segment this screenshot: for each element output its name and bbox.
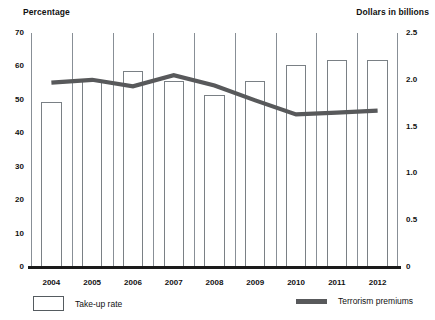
right-tick-2-0: 2.0 — [406, 75, 430, 84]
x-tick-2009: 2009 — [235, 278, 275, 287]
x-tick-2010: 2010 — [276, 278, 316, 287]
x-tick-2005: 2005 — [72, 278, 112, 287]
legend-item-terrorism-premiums: Terrorism premiums — [296, 296, 413, 306]
left-tick-70: 70 — [2, 28, 24, 37]
right-tick-0-5: 0.5 — [406, 215, 430, 224]
x-axis-line — [28, 266, 401, 269]
legend-label-take-up-rate: Take-up rate — [75, 299, 122, 309]
x-tick-2006: 2006 — [113, 278, 153, 287]
legend-item-take-up-rate: Take-up rate — [33, 296, 122, 311]
premium-line-path — [51, 75, 377, 114]
left-tick-40: 40 — [2, 128, 24, 137]
left-tick-10: 10 — [2, 229, 24, 238]
right-tick-0: 0 — [406, 262, 430, 271]
left-tick-50: 50 — [2, 95, 24, 104]
left-tick-30: 30 — [2, 162, 24, 171]
chart-container: Percentage Dollars in billions 706050403… — [0, 0, 435, 320]
left-axis-title: Percentage — [23, 7, 70, 17]
legend-swatch-bar-icon — [33, 296, 64, 311]
line-series-terrorism-premiums — [31, 33, 398, 267]
legend-swatch-line-icon — [296, 299, 327, 304]
x-tick-2004: 2004 — [31, 278, 71, 287]
x-tick-2007: 2007 — [154, 278, 194, 287]
left-tick-20: 20 — [2, 195, 24, 204]
legend-label-terrorism-premiums: Terrorism premiums — [338, 296, 413, 306]
right-tick-1-5: 1.5 — [406, 122, 430, 131]
left-tick-0: 0 — [2, 262, 24, 271]
right-axis-title: Dollars in billions — [356, 7, 429, 17]
right-tick-1-0: 1.0 — [406, 168, 430, 177]
x-tick-2011: 2011 — [317, 278, 357, 287]
x-tick-2012: 2012 — [358, 278, 398, 287]
x-tick-2008: 2008 — [195, 278, 235, 287]
plot-area — [31, 33, 398, 267]
right-tick-2-5: 2.5 — [406, 28, 430, 37]
left-tick-60: 60 — [2, 61, 24, 70]
